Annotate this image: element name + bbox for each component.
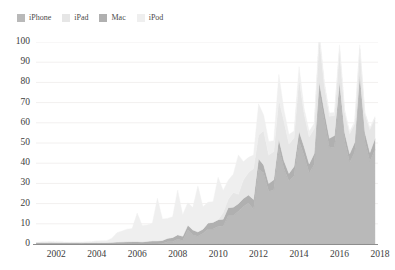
x-tick-label: 2018 (371, 250, 390, 260)
legend-label-mac: Mac (111, 14, 125, 22)
y-tick-label: 100 (16, 37, 30, 47)
y-tick-label: 70 (21, 98, 31, 108)
legend-swatch-iphone (17, 14, 25, 22)
y-tick-label: 40 (21, 158, 31, 168)
y-tick-label: 10 (21, 219, 31, 229)
x-tick-label: 2012 (249, 250, 268, 260)
legend-label-ipod: iPod (149, 14, 164, 22)
x-tick-label: 2010 (209, 250, 228, 260)
x-tick-label: 2004 (87, 250, 106, 260)
y-tick-label: 0 (25, 239, 30, 249)
x-tick-label: 2016 (330, 250, 349, 260)
y-axis: 0102030405060708090100 (0, 42, 33, 244)
legend-item-ipad: iPad (62, 14, 88, 22)
legend-label-ipad: iPad (74, 14, 88, 22)
x-tick-label: 2014 (290, 250, 309, 260)
legend-item-ipod: iPod (137, 14, 164, 22)
y-tick-label: 20 (21, 199, 31, 209)
stacked-area-svg (36, 42, 378, 244)
legend-item-mac: Mac (99, 14, 125, 22)
legend-swatch-mac (99, 14, 107, 22)
chart-container: iPhone iPad Mac iPod 0102030405060708090… (0, 0, 395, 270)
y-tick-label: 30 (21, 178, 31, 188)
chart-legend: iPhone iPad Mac iPod (17, 12, 174, 24)
x-tick-label: 2006 (128, 250, 147, 260)
legend-swatch-ipad (62, 14, 70, 22)
x-axis: 200220042006200820102012201420162018 (36, 245, 378, 265)
legend-label-iphone: iPhone (29, 14, 51, 22)
plot-area (36, 42, 378, 244)
y-tick-label: 90 (21, 57, 31, 67)
y-tick-label: 60 (21, 118, 31, 128)
x-tick-label: 2008 (168, 250, 187, 260)
x-tick-label: 2002 (47, 250, 66, 260)
y-tick-label: 50 (21, 138, 31, 148)
legend-swatch-ipod (137, 14, 145, 22)
y-tick-label: 80 (21, 77, 31, 87)
legend-item-iphone: iPhone (17, 14, 51, 22)
